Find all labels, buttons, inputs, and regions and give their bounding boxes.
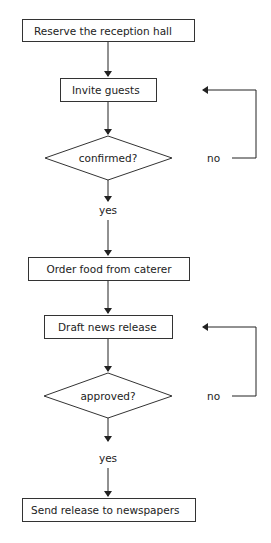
decision-confirmed: confirmed?: [45, 136, 172, 180]
edge-label-no: no: [207, 152, 220, 164]
node-label: Reserve the reception hall: [34, 25, 172, 37]
decision-approved: approved?: [44, 373, 172, 418]
decision-label: confirmed?: [79, 152, 138, 164]
edge-label-yes: yes: [99, 204, 117, 216]
edge-label-yes: yes: [99, 452, 117, 464]
node-label: Invite guests: [72, 84, 140, 96]
node-label: Send release to newspapers: [31, 504, 179, 516]
arrow-d2-no-loop: [203, 327, 256, 396]
node-draft-release: Draft news release: [45, 316, 173, 339]
node-order-food: Order food from caterer: [29, 258, 190, 281]
node-label: Order food from caterer: [46, 263, 172, 275]
node-reserve-hall: Reserve the reception hall: [23, 20, 195, 42]
edge-label-no: no: [207, 390, 220, 402]
decision-label: approved?: [80, 390, 135, 402]
node-label: Draft news release: [58, 321, 157, 333]
node-send-release: Send release to newspapers: [23, 499, 196, 522]
arrow-d1-no-loop: [203, 90, 256, 158]
flowchart-canvas: Reserve the reception hall Invite guests…: [0, 0, 271, 543]
node-invite-guests: Invite guests: [61, 79, 157, 102]
